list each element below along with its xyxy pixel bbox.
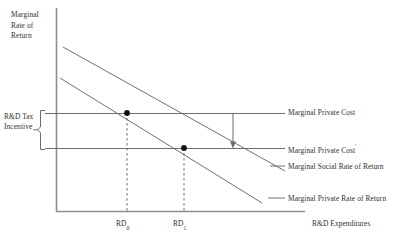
x-tick-rd0-subscript: 0: [126, 225, 129, 231]
marginal-private-rate-of-return-line: [60, 78, 262, 203]
equilibrium-point-rd1: [181, 145, 187, 151]
rd-tax-incentive-diagram: Marginal Rate of Return R&D Expenditures…: [0, 0, 403, 239]
curve-label-marginal-private-cost: Marginal Private Cost: [288, 108, 355, 118]
x-tick-rd1-subscript: 1: [183, 225, 186, 231]
marginal-social-rate-of-return-line: [63, 47, 285, 171]
x-axis-title: R&D Expenditures: [312, 219, 370, 229]
curve-label-marginal-social-rate-of-return: Marginal Social Rate of Return: [288, 162, 384, 172]
label-leader-lines-group: [266, 114, 285, 199]
cost-curves-group: [45, 114, 281, 149]
x-tick-rd0-main: RD: [116, 219, 126, 228]
return-curves-group: [60, 47, 285, 203]
tax-incentive-label: R&D Tax Incentive: [4, 112, 40, 133]
axes-group: [56, 8, 305, 212]
curve-label-mpc-prime-superscript: ': [355, 143, 356, 149]
curve-label-marginal-private-rate-of-return: Marginal Private Rate of Return: [288, 194, 386, 204]
equilibrium-point-rd0: [124, 110, 130, 116]
x-tick-label-rd1: RD1: [173, 219, 186, 232]
curve-label-marginal-private-cost-prime: Marginal Private Cost': [288, 143, 356, 157]
dropline-group: [127, 113, 184, 211]
x-tick-rd1-main: RD: [173, 219, 183, 228]
y-axis-title: Marginal Rate of Return: [11, 10, 53, 42]
curve-label-mpc-prime-main: Marginal Private Cost: [288, 146, 355, 155]
shift-arrow-icon: [230, 114, 236, 149]
x-tick-label-rd0: RD0: [116, 219, 129, 232]
equilibrium-markers-group: [124, 110, 187, 151]
